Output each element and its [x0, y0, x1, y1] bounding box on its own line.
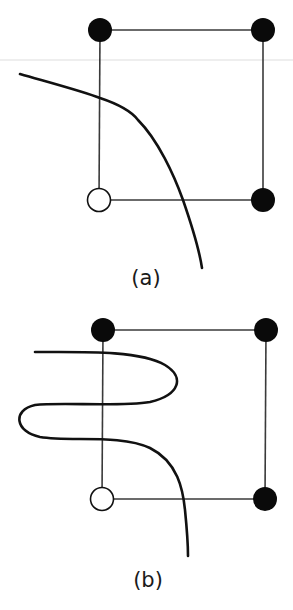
edge-left-a — [99, 30, 100, 200]
contour-curve-b — [19, 352, 188, 556]
panel-label-b: (b) — [133, 568, 163, 592]
node-open-bottom-left-b — [91, 488, 114, 511]
node-filled-bottom-right-a — [251, 188, 275, 212]
panel-a: (a) — [20, 18, 275, 290]
edge-left-b — [102, 330, 103, 499]
contour-curve-a — [20, 74, 202, 268]
figure-canvas: (a) (b) — [0, 0, 293, 610]
edge-right-b — [265, 330, 266, 499]
panel-b: (b) — [19, 318, 278, 592]
node-filled-top-left-b — [91, 318, 115, 342]
node-filled-top-left-a — [88, 18, 112, 42]
node-filled-bottom-right-b — [253, 487, 277, 511]
node-filled-top-right-a — [251, 18, 275, 42]
node-open-bottom-left-a — [88, 189, 111, 212]
node-filled-top-right-b — [254, 318, 278, 342]
square-edges-a — [99, 30, 263, 200]
panel-label-a: (a) — [131, 266, 160, 290]
